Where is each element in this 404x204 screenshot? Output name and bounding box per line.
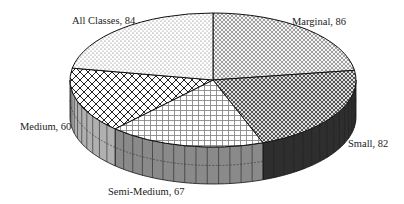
- pie-chart: Marginal, 86 Small, 82 Semi-Medium, 67 M…: [0, 0, 404, 204]
- data-label-all-classes: All Classes, 84: [72, 15, 136, 26]
- data-label-medium: Medium, 60: [20, 121, 71, 132]
- data-label-semi-medium: Semi-Medium, 67: [108, 186, 184, 197]
- data-label-marginal: Marginal, 86: [292, 16, 346, 27]
- pie-tops: [70, 13, 356, 147]
- data-label-small: Small, 82: [348, 138, 388, 149]
